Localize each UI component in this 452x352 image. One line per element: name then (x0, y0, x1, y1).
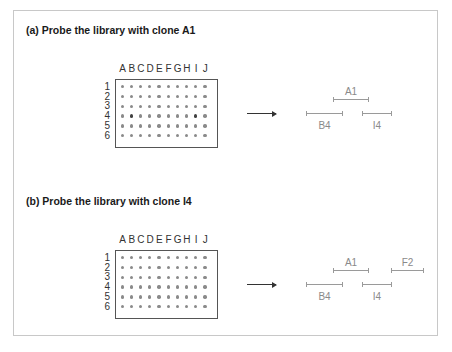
well-dot-B1 (130, 256, 133, 259)
column-header: B (127, 63, 136, 74)
well-dot-I2 (194, 266, 197, 269)
well-dot-G2 (176, 95, 179, 98)
panel-a-column-headers: ABCDEFGHIJ (118, 63, 210, 74)
column-header: D (146, 234, 155, 245)
well-dot-A2 (121, 266, 124, 269)
well-dot-H5 (185, 295, 188, 298)
well-dot-H5 (185, 124, 188, 127)
well-dot-H1 (185, 256, 188, 259)
well-dot-D4 (148, 114, 151, 117)
well-dot-D2 (148, 95, 151, 98)
well-dot-D4 (148, 285, 151, 288)
well-dot-B1 (130, 85, 133, 88)
well-dot-A6 (121, 305, 124, 308)
well-dot-F1 (167, 85, 170, 88)
well-dot-G4 (176, 285, 179, 288)
column-header: D (146, 63, 155, 74)
well-dot-I1 (194, 85, 197, 88)
well-dot-J2 (203, 95, 206, 98)
panel-b-title: (b) Probe the library with clone I4 (26, 195, 192, 207)
well-dot-I6 (194, 134, 197, 137)
well-dot-J4 (203, 114, 206, 117)
column-header: H (182, 63, 191, 74)
well-dot-H2 (185, 95, 188, 98)
clone-label: F2 (402, 257, 414, 268)
well-dot-C6 (139, 134, 142, 137)
well-dot-H6 (185, 134, 188, 137)
well-dot-I4 (194, 285, 197, 288)
well-dot-D1 (148, 85, 151, 88)
well-dot-J4 (203, 285, 206, 288)
well-dot-A3 (121, 276, 124, 279)
well-dot-H4 (185, 285, 188, 288)
well-dot-G1 (176, 85, 179, 88)
well-dot-F5 (167, 295, 170, 298)
well-dot-A5 (121, 124, 124, 127)
well-dot-I5 (194, 295, 197, 298)
column-header: H (182, 234, 191, 245)
well-dot-F4 (167, 114, 170, 117)
well-dot-G1 (176, 256, 179, 259)
column-header: F (164, 234, 173, 245)
clone-segment-B4 (306, 284, 343, 285)
well-dot-G5 (176, 295, 179, 298)
well-dot-E4 (157, 114, 160, 117)
well-dot-H3 (185, 105, 188, 108)
well-dot-C2 (139, 95, 142, 98)
well-dot-D5 (148, 124, 151, 127)
column-header: C (136, 234, 145, 245)
well-dot-I6 (194, 305, 197, 308)
panel-b-row-labels: 123456 (100, 253, 110, 311)
well-dot-C2 (139, 266, 142, 269)
well-dot-J6 (203, 134, 206, 137)
well-dot-F3 (167, 276, 170, 279)
panel-a-title: (a) Probe the library with clone A1 (26, 24, 195, 36)
well-dot-B4 (130, 114, 133, 117)
well-dot-G2 (176, 266, 179, 269)
panel-b-arrow-icon (247, 284, 276, 285)
well-dot-E5 (157, 295, 160, 298)
column-header: C (136, 63, 145, 74)
well-dot-B2 (130, 266, 133, 269)
clone-label: B4 (318, 291, 330, 302)
column-header: I (192, 63, 201, 74)
well-dot-E1 (157, 85, 160, 88)
well-dot-F2 (167, 95, 170, 98)
well-dot-I4 (194, 114, 197, 117)
well-dot-J6 (203, 305, 206, 308)
clone-segment-F2 (391, 270, 424, 271)
well-dot-H4 (185, 114, 188, 117)
column-header: A (118, 63, 127, 74)
well-dot-E3 (157, 276, 160, 279)
well-dot-G6 (176, 134, 179, 137)
well-dot-I3 (194, 105, 197, 108)
well-dot-B5 (130, 295, 133, 298)
clone-label: A1 (345, 257, 357, 268)
well-dot-F5 (167, 124, 170, 127)
well-dot-F2 (167, 266, 170, 269)
column-header: A (118, 234, 127, 245)
well-dot-A1 (121, 256, 124, 259)
column-header: E (155, 234, 164, 245)
well-dot-J3 (203, 276, 206, 279)
well-dot-C3 (139, 276, 142, 279)
clone-segment-I4 (362, 284, 392, 285)
well-dot-A6 (121, 134, 124, 137)
column-header: E (155, 63, 164, 74)
well-dot-I5 (194, 124, 197, 127)
well-dot-A2 (121, 95, 124, 98)
well-dot-B5 (130, 124, 133, 127)
column-header: B (127, 234, 136, 245)
well-dot-G4 (176, 114, 179, 117)
clone-label: I4 (373, 120, 381, 131)
well-dot-A4 (121, 114, 124, 117)
well-dot-G6 (176, 305, 179, 308)
clone-segment-I4 (362, 113, 392, 114)
well-dot-E6 (157, 305, 160, 308)
well-dot-E5 (157, 124, 160, 127)
clone-label: A1 (345, 86, 357, 97)
well-dot-F6 (167, 305, 170, 308)
well-dot-C1 (139, 256, 142, 259)
clone-segment-A1 (333, 99, 369, 100)
well-dot-B4 (130, 285, 133, 288)
